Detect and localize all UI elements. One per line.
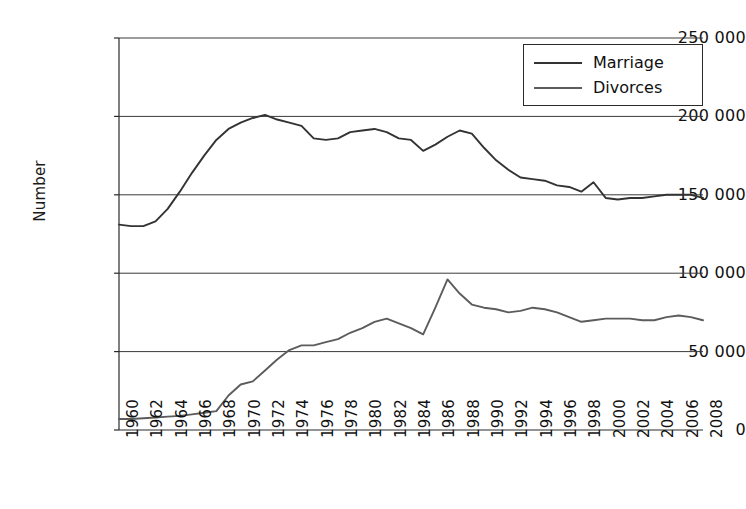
x-axis-tick-label: 1994 bbox=[538, 399, 556, 438]
legend-label-marriage: Marriage bbox=[593, 55, 664, 71]
x-axis-tick-label: 1998 bbox=[586, 399, 604, 438]
x-axis-tick-label: 1964 bbox=[173, 399, 191, 438]
x-axis-tick-label: 1962 bbox=[148, 399, 166, 438]
x-axis-tick-label: 2004 bbox=[659, 399, 677, 438]
x-axis-tick-label: 1978 bbox=[343, 399, 361, 438]
x-axis-tick-label: 1966 bbox=[197, 399, 215, 438]
x-axis-tick-label: 2002 bbox=[635, 399, 653, 438]
legend-label-divorces: Divorces bbox=[593, 80, 662, 96]
x-axis-tick-label: 1974 bbox=[294, 399, 312, 438]
legend-line-swatch-divorces bbox=[534, 87, 582, 89]
x-axis-tick-label: 1988 bbox=[465, 399, 483, 438]
legend-entry-marriage: Marriage bbox=[534, 52, 664, 74]
x-axis-tick-label: 1996 bbox=[562, 399, 580, 438]
x-axis-tick-label: 1970 bbox=[246, 399, 264, 438]
x-axis-tick-label: 2008 bbox=[708, 399, 726, 438]
x-axis-tick-label: 1990 bbox=[489, 399, 507, 438]
x-axis-tick-label: 1986 bbox=[440, 399, 458, 438]
x-axis-tick-label: 1992 bbox=[513, 399, 531, 438]
line-chart: Number 050 000100 000150 000200 000250 0… bbox=[0, 0, 746, 509]
series-line-marriage bbox=[119, 115, 703, 226]
legend-entry-divorces: Divorces bbox=[534, 77, 662, 99]
x-axis-tick-label: 1976 bbox=[319, 399, 337, 438]
x-axis-tick-label: 1980 bbox=[367, 399, 385, 438]
legend: Marriage Divorces bbox=[523, 44, 703, 106]
legend-line-swatch-marriage bbox=[534, 62, 582, 64]
x-axis-tick-label: 1960 bbox=[124, 399, 142, 438]
x-axis-tick-label: 1984 bbox=[416, 399, 434, 438]
x-axis-tick-label: 1968 bbox=[221, 399, 239, 438]
x-axis-tick-label: 2000 bbox=[611, 399, 629, 438]
data-series bbox=[119, 115, 703, 419]
x-axis-tick-label: 1972 bbox=[270, 399, 288, 438]
x-axis-tick-label: 2006 bbox=[684, 399, 702, 438]
x-axis-tick-label: 1982 bbox=[392, 399, 410, 438]
